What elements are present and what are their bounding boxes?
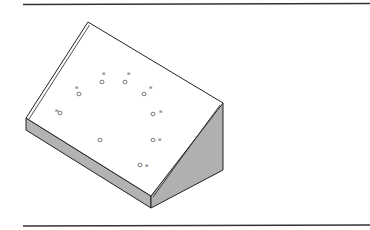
hole-label: ⊞ — [159, 109, 162, 114]
top-rule — [23, 4, 370, 5]
hole-label: ⊞ — [75, 85, 78, 90]
hole-label: ⊞ — [149, 85, 152, 90]
hole-label: ⊞ — [102, 71, 105, 76]
bottom-rule — [23, 225, 370, 226]
drawing-canvas: ⊞⊞⊞⊞⊞⊞⊞⊞ — [0, 0, 370, 230]
hole-label: ⊞ — [145, 163, 148, 168]
hole-label: ⊞ — [158, 137, 161, 142]
wedge-block-drawing: ⊞⊞⊞⊞⊞⊞⊞⊞ — [0, 0, 370, 230]
hole-label: ⊞ — [55, 108, 58, 113]
hole-label: ⊞ — [127, 71, 130, 76]
